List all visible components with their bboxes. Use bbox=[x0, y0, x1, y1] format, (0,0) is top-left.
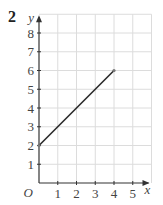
endpoint-marker bbox=[37, 144, 40, 147]
y-tick-label: 6 bbox=[28, 63, 35, 78]
y-tick-label: 7 bbox=[28, 44, 35, 59]
x-tick-label: 4 bbox=[111, 186, 118, 201]
x-tick-label: 5 bbox=[130, 186, 137, 201]
x-tick-label: 1 bbox=[55, 186, 62, 201]
y-tick-label: 1 bbox=[28, 157, 35, 172]
y-axis-label: y bbox=[26, 10, 34, 25]
origin-label: O bbox=[24, 185, 34, 200]
x-tick-label: 3 bbox=[92, 186, 99, 201]
endpoint-marker bbox=[112, 69, 115, 72]
x-tick-label: 2 bbox=[73, 186, 80, 201]
y-tick-label: 3 bbox=[28, 119, 35, 134]
y-tick-label: 2 bbox=[28, 138, 35, 153]
y-tick-label: 4 bbox=[28, 101, 35, 116]
y-axis-arrow-icon bbox=[36, 15, 42, 22]
x-axis-label: x bbox=[144, 182, 151, 197]
line-chart: 1234512345678Oxy bbox=[0, 0, 163, 205]
y-tick-label: 8 bbox=[28, 26, 35, 41]
y-tick-label: 5 bbox=[28, 82, 35, 97]
